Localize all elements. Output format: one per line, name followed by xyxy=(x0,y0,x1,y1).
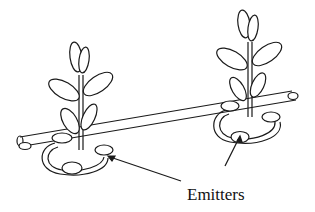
plant-right xyxy=(213,9,285,117)
emitter xyxy=(95,145,113,155)
emitter xyxy=(262,112,280,122)
emitter-ring-left xyxy=(42,133,113,175)
pointer-arrows xyxy=(108,136,242,181)
emitter-ring-right xyxy=(214,101,281,143)
emitter xyxy=(221,101,239,111)
drip-irrigation-diagram xyxy=(0,0,315,212)
emitter xyxy=(52,133,72,143)
emitter xyxy=(62,162,82,174)
emitters-label: Emitters xyxy=(187,185,245,205)
